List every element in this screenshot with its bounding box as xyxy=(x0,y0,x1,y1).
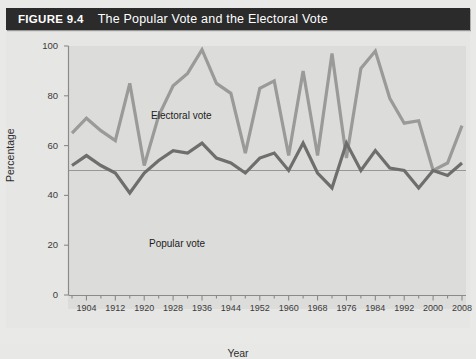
chart-figure: Percentage Year Electoral vote Popular v… xyxy=(6,32,470,328)
y-tick-label: 20 xyxy=(28,239,58,250)
y-axis-title: Percentage xyxy=(4,128,16,182)
figure-header-bar: FIGURE 9.4 The Popular Vote and the Elec… xyxy=(6,8,470,30)
y-tick-label: 0 xyxy=(28,289,58,300)
x-axis-title: Year xyxy=(6,347,470,359)
series-label-popular: Popular vote xyxy=(149,238,205,249)
series-label-electoral: Electoral vote xyxy=(151,110,212,121)
chart-svg xyxy=(68,46,466,309)
y-tick-label: 100 xyxy=(28,40,58,51)
plot-area xyxy=(68,46,466,309)
figure-title: The Popular Vote and the Electoral Vote xyxy=(98,12,328,26)
y-tick-label: 80 xyxy=(28,90,58,101)
y-tick-label: 40 xyxy=(28,189,58,200)
figure-number-label: FIGURE 9.4 xyxy=(18,13,84,25)
x-tick-label: 2008 xyxy=(445,303,476,313)
y-tick-label: 60 xyxy=(28,140,58,151)
